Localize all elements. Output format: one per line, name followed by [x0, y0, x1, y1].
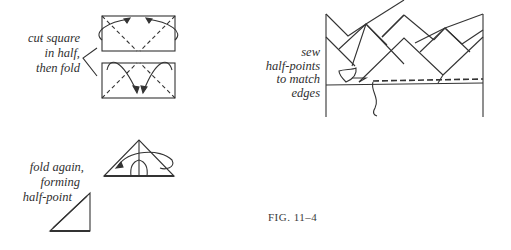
lower-rectangle	[102, 62, 175, 98]
label-line: sew	[240, 46, 320, 60]
label-line: in half,	[0, 46, 80, 61]
upper-rectangle	[99, 16, 178, 51]
label-line: edges	[240, 87, 320, 101]
label-line: then fold	[0, 61, 80, 76]
figure-caption: FIG. 11–4	[268, 211, 317, 223]
label-line: forming	[0, 175, 80, 190]
label-fold-again: fold again, forming half-point	[0, 160, 84, 205]
label-sew: sew half-points to match edges	[240, 46, 320, 100]
label-line: to match	[240, 73, 320, 87]
bracket-connector	[83, 48, 97, 76]
diagram-canvas: cut square in half, then fold fold again…	[0, 0, 511, 250]
label-line: fold again,	[0, 160, 84, 175]
label-line: half-point	[0, 190, 72, 205]
folded-triangle	[104, 140, 174, 176]
label-line: half-points	[240, 60, 320, 74]
label-line: cut square	[0, 31, 80, 46]
label-cut-square: cut square in half, then fold	[0, 31, 80, 76]
sewing-assembly	[326, 0, 483, 117]
